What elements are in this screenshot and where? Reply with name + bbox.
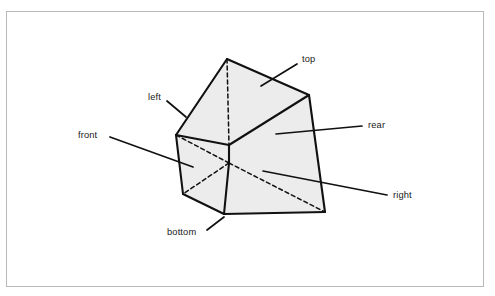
- label-top: top: [302, 54, 315, 64]
- labeled-solid-diagram: topleftfrontrearrightbottom: [0, 0, 495, 296]
- label-bottom: bottom: [167, 227, 196, 237]
- label-front: front: [78, 130, 98, 140]
- label-left: left: [148, 92, 161, 102]
- leader-line-left: [167, 101, 186, 117]
- label-rear: rear: [368, 120, 385, 130]
- figure-page: topleftfrontrearrightbottom: [0, 0, 495, 296]
- label-right: right: [393, 190, 412, 200]
- leader-line-bottom: [207, 217, 224, 230]
- solid-faces-group: [176, 59, 325, 214]
- face-front: [176, 135, 229, 214]
